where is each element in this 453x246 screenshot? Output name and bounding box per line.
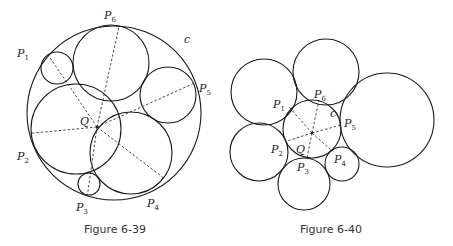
- dashed-line-p6: [97, 26, 119, 127]
- center-point-q: [96, 126, 99, 129]
- label-p6: P6: [103, 9, 116, 24]
- label-p2: P2: [270, 143, 283, 158]
- dashed-line-p3: [307, 133, 312, 158]
- figure-caption: Figure 6-40: [300, 223, 362, 236]
- label-p4: P4: [333, 153, 346, 168]
- dashed-line-p5: [312, 125, 341, 133]
- label-p5: P5: [198, 82, 211, 97]
- label-c: c: [330, 107, 336, 120]
- label-p1: P1: [16, 47, 29, 62]
- label-q: Q: [80, 115, 89, 128]
- center-point-q: [311, 132, 314, 135]
- label-p5: P5: [343, 117, 356, 132]
- dashed-line-p3: [87, 127, 97, 195]
- label-p4: P4: [146, 197, 159, 212]
- fig-6-39: QcP1P2P3P4P5P6Figure 6-39: [16, 9, 211, 236]
- label-c: c: [184, 33, 190, 46]
- label-p2: P2: [16, 150, 29, 165]
- circle-p1: [231, 59, 297, 125]
- label-p6: P6: [313, 88, 326, 103]
- figure-caption: Figure 6-39: [84, 223, 146, 236]
- circle-p2: [31, 84, 121, 174]
- dashed-line-p6: [312, 100, 319, 133]
- circle-p1: [41, 52, 73, 84]
- label-p3: P3: [75, 201, 88, 216]
- label-q: Q: [296, 143, 305, 156]
- figure-canvas: QcP1P2P3P4P5P6Figure 6-39QcP1P2P3P4P5P6F…: [0, 0, 453, 246]
- label-p1: P1: [272, 98, 285, 113]
- label-p3: P3: [296, 161, 309, 176]
- dashed-line-p2: [287, 133, 312, 141]
- circle-p5: [340, 73, 434, 167]
- fig-6-40: QcP1P2P3P4P5P6Figure 6-40: [230, 39, 434, 236]
- circle-p6: [293, 39, 359, 105]
- circle-p6: [73, 25, 149, 101]
- dashed-line-p4: [312, 133, 331, 150]
- dashed-line-p4: [97, 127, 164, 178]
- dashed-line-p1: [289, 107, 312, 133]
